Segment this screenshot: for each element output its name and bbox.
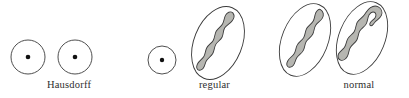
normal-set-neighborhood-left — [269, 0, 340, 84]
ellipse-outline — [326, 0, 397, 82]
panel-label-hausdorff: Hausdorff — [0, 79, 140, 91]
regular-set-neighborhood — [182, 0, 255, 87]
closed-set-blob — [196, 8, 236, 75]
hausdorff-neighborhood-left — [11, 40, 45, 74]
hausdorff-neighborhood-right — [58, 40, 92, 74]
panel-regular: regular — [140, 0, 265, 98]
normal-set-neighborhood-right — [326, 0, 397, 82]
point-dot — [160, 58, 164, 62]
regular-point-neighborhood — [148, 46, 176, 74]
panel-label-normal: normal — [265, 79, 409, 91]
point-dot — [26, 55, 31, 60]
ellipse-outline — [182, 0, 255, 87]
separation-axioms-figure: Hausdorff regular normal — [0, 0, 409, 98]
panel-normal: normal — [265, 0, 409, 98]
panel-label-regular: regular — [140, 79, 265, 91]
closed-set-blob — [337, 0, 384, 68]
point-dot — [73, 55, 78, 60]
panel-hausdorff: Hausdorff — [0, 0, 140, 98]
